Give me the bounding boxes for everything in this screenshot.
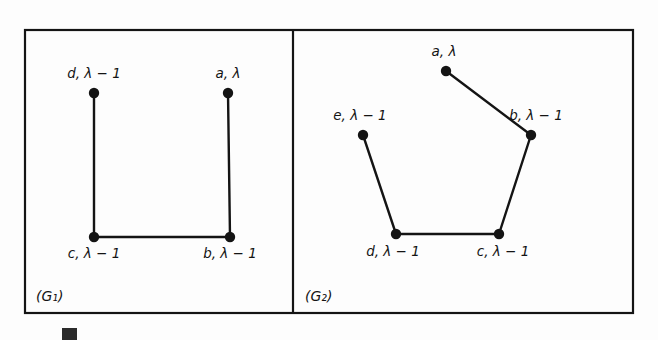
graph-panel-g2: a, λe, λ − 1b, λ − 1d, λ − 1c, λ − 1(G₂) xyxy=(305,43,563,304)
edge-b-c xyxy=(499,135,531,234)
vertex-d xyxy=(89,88,99,98)
figure-caption-strip xyxy=(0,326,658,340)
vertex-label-c: c, λ − 1 xyxy=(477,243,529,259)
panel-label-g2: (G₂) xyxy=(305,288,332,304)
figure-root: d, λ − 1a, λc, λ − 1b, λ − 1(G₁)a, λe, λ… xyxy=(0,0,658,340)
vertex-d xyxy=(391,229,401,239)
vertex-a xyxy=(441,66,451,76)
vertex-label-d: d, λ − 1 xyxy=(67,65,121,81)
vertex-label-b: b, λ − 1 xyxy=(509,107,563,123)
panel-label-g1: (G₁) xyxy=(36,288,63,304)
graph-figure: d, λ − 1a, λc, λ − 1b, λ − 1(G₁)a, λe, λ… xyxy=(0,0,658,326)
vertex-c xyxy=(494,229,504,239)
vertex-e xyxy=(358,130,368,140)
vertex-label-a: a, λ xyxy=(216,65,241,81)
vertex-c xyxy=(89,232,99,242)
caption-marker-icon xyxy=(62,328,77,340)
vertex-label-b: b, λ − 1 xyxy=(203,245,257,261)
graph-panel-g1: d, λ − 1a, λc, λ − 1b, λ − 1(G₁) xyxy=(36,65,257,304)
vertex-b xyxy=(225,232,235,242)
vertex-label-c: c, λ − 1 xyxy=(68,245,120,261)
vertex-label-e: e, λ − 1 xyxy=(333,107,386,123)
edge-b-a xyxy=(228,93,230,237)
vertex-label-d: d, λ − 1 xyxy=(366,243,420,259)
edge-d-e xyxy=(363,135,396,234)
vertex-a xyxy=(223,88,233,98)
vertex-label-a: a, λ xyxy=(432,43,457,59)
vertex-b xyxy=(526,130,536,140)
edge-a-b xyxy=(446,71,531,135)
